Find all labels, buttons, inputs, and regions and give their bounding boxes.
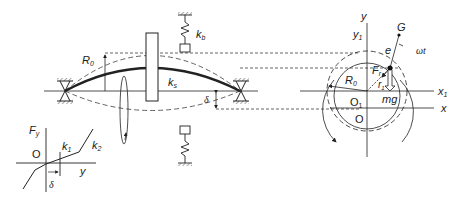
top-spring [178, 12, 192, 52]
label-k1: k1 [62, 140, 72, 153]
label-delta-shaft: δ [204, 94, 209, 105]
label-kb: kb [196, 28, 206, 41]
bottom-spring [178, 126, 192, 166]
whirl-ellipse [120, 76, 128, 144]
rotor-dynamics-diagram: R0 kb ks δ Fy O k1 k2 y δ [0, 0, 463, 198]
label-r0-right: R0 [345, 74, 357, 87]
label-e: e [385, 44, 391, 56]
center-point [388, 66, 393, 71]
label-r1: r1 [378, 79, 385, 91]
label-omega-t: ωt [416, 45, 426, 56]
label-ks: ks [168, 76, 178, 89]
label-y-graph: y [79, 165, 87, 177]
label-y1-axis: y1 [352, 28, 363, 41]
label-delta-graph: δ [49, 179, 54, 190]
rotor-disk [146, 33, 158, 101]
label-fy: Fy [29, 124, 40, 138]
stiffness-graph [16, 128, 96, 192]
label-o-graph: O [32, 148, 41, 160]
label-x-axis: x [440, 102, 447, 114]
mass-center-g [397, 33, 400, 36]
rotation-arc-left [323, 80, 336, 142]
mg-arrow [385, 70, 395, 91]
label-o: O [355, 113, 364, 125]
label-k2: k2 [92, 139, 102, 152]
label-g: G [397, 21, 406, 33]
label-mg: mg [382, 93, 398, 105]
label-r0-left: R0 [82, 54, 94, 67]
label-x1-axis: x1 [437, 85, 448, 98]
cross-section [300, 23, 434, 157]
label-y-axis: y [360, 10, 368, 22]
label-o1: O1 [350, 96, 363, 109]
e-line [390, 35, 399, 68]
